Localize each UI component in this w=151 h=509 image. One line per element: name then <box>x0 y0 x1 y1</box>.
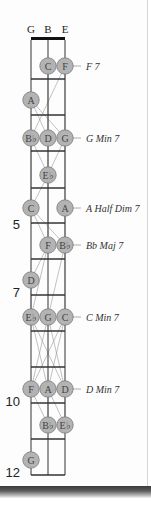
chord-bb-maj-7: Bb Maj 7FB♭ <box>40 237 124 253</box>
chord-label: C Min 7 <box>86 312 120 323</box>
note-label: B♭ <box>59 240 71 251</box>
fret-number-5: 5 <box>13 217 20 232</box>
note-label: C <box>62 312 69 323</box>
chord-d-min-7: D Min 7FAD <box>23 381 121 397</box>
passing-note-group: G <box>23 452 39 468</box>
chord-f-7: F 7CF <box>40 58 101 74</box>
note-label: E♭ <box>59 420 70 431</box>
chord-label: F 7 <box>85 61 101 72</box>
string-label-g: G <box>27 23 35 35</box>
fret-number-7: 7 <box>13 285 20 300</box>
note-label: F <box>28 384 34 395</box>
fretboard-diagram: GBE 571012 F 7CFAG Min 7B♭DGE♭A Half Dim… <box>0 0 151 509</box>
note-label: D <box>44 133 51 144</box>
note-label: B♭ <box>25 133 37 144</box>
fret-number-12: 12 <box>6 465 20 480</box>
note-label: A <box>27 95 35 106</box>
note-label: F <box>62 61 68 72</box>
note-label: D <box>61 384 68 395</box>
passing-note-group: D <box>23 272 39 288</box>
nut <box>31 37 65 40</box>
note-label: D <box>27 275 34 286</box>
string-labels: GBE <box>27 23 69 35</box>
note-label: G <box>61 133 68 144</box>
string-label-b: B <box>44 23 51 35</box>
chord-a-half-dim-7: A Half Dim 7CA <box>23 200 141 216</box>
note-label: G <box>44 312 51 323</box>
chord-c-min-7: C Min 7E♭GC <box>23 309 120 325</box>
fret-number-10: 10 <box>6 394 20 409</box>
note-label: B♭ <box>42 420 54 431</box>
passing-note-group: E♭ <box>40 167 56 183</box>
fret-numbers: 571012 <box>6 217 20 480</box>
note-label: C <box>45 61 52 72</box>
note-label: A <box>44 384 52 395</box>
note-label: E♭ <box>25 312 36 323</box>
voice-leading-line <box>48 245 65 317</box>
chord-label: Bb Maj 7 <box>86 240 124 251</box>
chord-g-min-7: G Min 7B♭DG <box>23 130 121 146</box>
chord-label: D Min 7 <box>85 384 120 395</box>
note-label: E♭ <box>42 170 53 181</box>
note-label: F <box>45 240 51 251</box>
chord-label: A Half Dim 7 <box>85 203 140 214</box>
string-label-e: E <box>62 23 69 35</box>
chord-label: G Min 7 <box>86 133 120 144</box>
chord-shapes: F 7CFAG Min 7B♭DGE♭A Half Dim 7CABb Maj … <box>23 58 141 468</box>
note-label: G <box>27 455 34 466</box>
note-label: C <box>28 203 35 214</box>
passing-note-group: B♭E♭ <box>40 417 73 433</box>
note-label: A <box>61 203 69 214</box>
passing-note-group: A <box>23 92 39 108</box>
